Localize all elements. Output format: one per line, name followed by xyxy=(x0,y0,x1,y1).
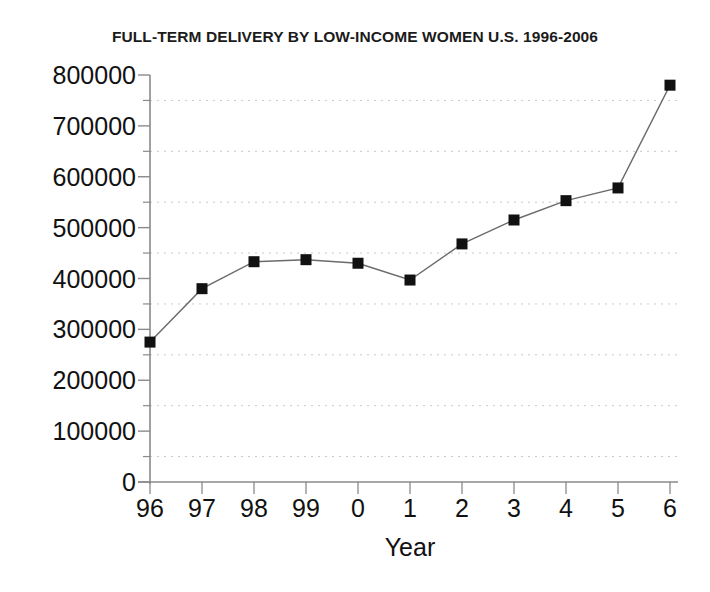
data-point-marker xyxy=(249,256,260,267)
y-axis-tick-label-text: 700000 xyxy=(18,113,136,138)
x-axis-tick-label: 4 xyxy=(536,496,596,521)
data-point-marker xyxy=(509,214,520,225)
y-axis-tick-label-text: 0 xyxy=(18,470,136,495)
data-point-marker xyxy=(353,258,364,269)
y-axis-tick-label-text: 600000 xyxy=(18,164,136,189)
data-point-marker xyxy=(665,80,676,91)
y-axis-tick-label-text: 100000 xyxy=(18,419,136,444)
y-axis-tick-label-text: 200000 xyxy=(18,368,136,393)
data-point-marker xyxy=(197,283,208,294)
y-axis-tick-label-text: 500000 xyxy=(18,215,136,240)
y-axis-tick-label-text: 300000 xyxy=(18,317,136,342)
data-point-marker xyxy=(561,195,572,206)
x-axis-tick-label: 97 xyxy=(172,496,232,521)
y-axis-tick-label-text: 800000 xyxy=(18,63,136,88)
y-axis-tick-label-text: 400000 xyxy=(18,266,136,291)
data-point-marker xyxy=(405,275,416,286)
x-axis-tick-label: 1 xyxy=(380,496,440,521)
x-axis-tick-label: 3 xyxy=(484,496,544,521)
y-axis-ticks xyxy=(138,75,150,482)
chart-figure: FULL-TERM DELIVERY BY LOW-INCOME WOMEN U… xyxy=(0,0,710,592)
x-axis-title: Year xyxy=(150,533,670,562)
data-point-marker xyxy=(613,182,624,193)
data-point-marker xyxy=(145,337,156,348)
x-axis-tick-label: 5 xyxy=(588,496,648,521)
data-point-marker xyxy=(457,238,468,249)
x-axis-ticks xyxy=(150,482,670,494)
x-axis-tick-label: 0 xyxy=(328,496,388,521)
x-axis-tick-label: 98 xyxy=(224,496,284,521)
x-axis-tick-label: 99 xyxy=(276,496,336,521)
data-markers xyxy=(145,80,676,348)
data-point-marker xyxy=(301,254,312,265)
x-axis-tick-label: 2 xyxy=(432,496,492,521)
x-axis-tick-label: 96 xyxy=(120,496,180,521)
x-axis-tick-label: 6 xyxy=(640,496,700,521)
